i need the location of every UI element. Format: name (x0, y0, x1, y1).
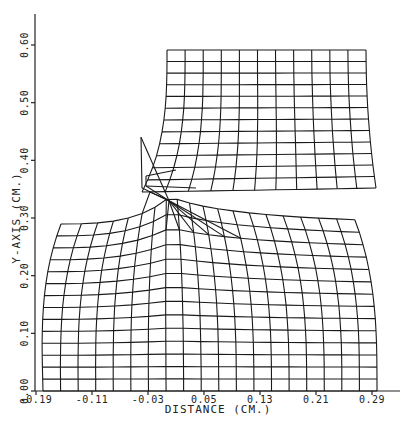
x-tick-label: 0.29 (359, 394, 385, 405)
mesh-plot: 0.000.100.200.300.400.500.60 -0.19-0.11-… (0, 0, 413, 422)
x-tick-label: -0.03 (132, 394, 165, 405)
y-tick-label: 0.40 (19, 147, 30, 173)
y-tick-label: 0.50 (19, 90, 30, 116)
x-tick-label: -0.19 (20, 394, 53, 405)
y-tick-label: 0.60 (19, 32, 30, 58)
x-axis-title: DISTANCE (CM.) (165, 403, 272, 416)
x-tick-label: 0.21 (303, 394, 329, 405)
y-axis-title: Y-AXIS (CM.) (10, 172, 23, 263)
y-tick-label: 0.10 (19, 320, 30, 346)
y-tick-label: 0.20 (19, 263, 30, 289)
deformed-mesh (42, 50, 377, 391)
x-tick-label: -0.11 (76, 394, 109, 405)
